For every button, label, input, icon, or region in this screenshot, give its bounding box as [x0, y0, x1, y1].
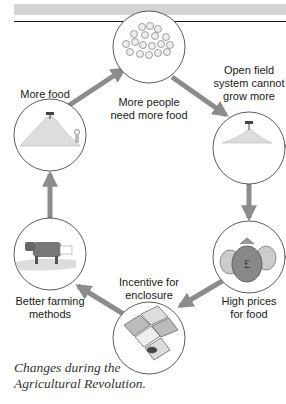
label-prices: High prices for food: [209, 295, 286, 321]
node-food-circle: [14, 99, 86, 171]
node-prices-circle: £: [213, 221, 285, 293]
label-enclosure: Incentive for enclosure: [109, 276, 189, 302]
figure-caption: Changes during the Agricultural Revoluti…: [14, 360, 146, 392]
node-farming-circle: [14, 218, 86, 290]
label-food: More food: [10, 88, 80, 101]
cycle-diagram: £: [0, 0, 286, 404]
label-farming: Better farming methods: [4, 295, 96, 321]
svg-text:£: £: [244, 257, 250, 271]
label-openfield: Open field system cannot grow more: [206, 64, 286, 103]
label-people: More people need more food: [104, 96, 194, 122]
node-people-circle: [113, 11, 185, 83]
node-openfield-circle: [213, 112, 285, 184]
